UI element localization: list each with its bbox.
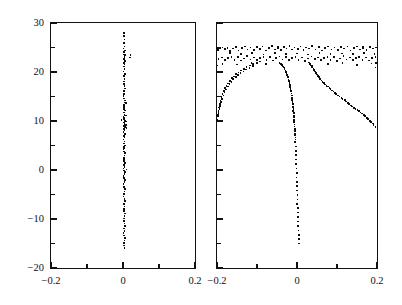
y-tick-major bbox=[217, 120, 223, 121]
data-point bbox=[123, 35, 125, 37]
data-point bbox=[308, 48, 310, 50]
data-point bbox=[372, 48, 374, 50]
data-point bbox=[219, 108, 221, 110]
data-point bbox=[347, 102, 349, 104]
data-point bbox=[227, 57, 229, 59]
y-tick-minor bbox=[217, 96, 221, 97]
data-point bbox=[280, 63, 282, 65]
data-point bbox=[247, 49, 249, 51]
data-point bbox=[224, 48, 226, 50]
data-point bbox=[217, 116, 219, 118]
data-point bbox=[375, 56, 377, 58]
y-tick-label: 20 bbox=[2, 67, 44, 78]
data-point bbox=[352, 59, 354, 61]
x-tick-label: 0.2 bbox=[352, 276, 402, 287]
y-tick-minor bbox=[217, 194, 221, 195]
data-point bbox=[221, 98, 223, 100]
data-point bbox=[369, 46, 371, 48]
y-tick-minor bbox=[51, 194, 55, 195]
data-point bbox=[121, 119, 123, 121]
data-point bbox=[296, 185, 298, 187]
data-point bbox=[346, 59, 348, 61]
data-point bbox=[227, 86, 229, 88]
data-point bbox=[375, 126, 377, 128]
data-point bbox=[327, 63, 329, 65]
data-point bbox=[286, 48, 288, 50]
data-point bbox=[129, 57, 131, 59]
data-point bbox=[356, 46, 358, 48]
x-tick-label: −0.2 bbox=[192, 276, 242, 287]
data-point bbox=[125, 121, 127, 123]
data-point bbox=[279, 56, 281, 58]
data-point bbox=[280, 49, 282, 51]
data-point bbox=[298, 238, 300, 240]
data-point bbox=[366, 49, 368, 51]
data-point bbox=[342, 62, 344, 64]
data-point bbox=[293, 117, 295, 119]
data-point bbox=[298, 243, 300, 245]
data-point bbox=[253, 49, 255, 51]
data-point bbox=[243, 71, 245, 73]
data-point bbox=[313, 68, 315, 70]
data-point bbox=[294, 47, 296, 49]
data-point bbox=[262, 46, 264, 48]
data-point bbox=[363, 52, 365, 54]
data-point bbox=[352, 53, 354, 55]
data-point bbox=[243, 68, 245, 70]
data-point bbox=[318, 76, 320, 78]
data-point bbox=[243, 58, 245, 60]
data-point bbox=[305, 47, 307, 49]
data-point bbox=[374, 53, 376, 55]
data-point bbox=[327, 56, 329, 58]
data-point bbox=[324, 47, 326, 49]
data-point bbox=[240, 53, 242, 55]
data-point bbox=[293, 112, 295, 114]
data-point bbox=[285, 56, 287, 58]
data-point bbox=[296, 168, 298, 170]
y-tick-label: 30 bbox=[2, 18, 44, 29]
x-tick-label: 0 bbox=[98, 276, 148, 287]
data-point bbox=[371, 63, 373, 65]
y-tick-major bbox=[51, 169, 57, 170]
data-point bbox=[218, 58, 220, 60]
data-point bbox=[340, 46, 342, 48]
data-point bbox=[123, 232, 125, 234]
data-point bbox=[124, 181, 126, 183]
data-point bbox=[375, 67, 377, 69]
data-point bbox=[334, 47, 336, 49]
data-point bbox=[337, 49, 339, 51]
data-point bbox=[315, 49, 317, 51]
data-point bbox=[294, 134, 296, 136]
y-tick-minor bbox=[51, 96, 55, 97]
data-point bbox=[123, 228, 125, 230]
y-tick-minor bbox=[51, 243, 55, 244]
data-point bbox=[296, 190, 298, 192]
data-point bbox=[331, 49, 333, 51]
data-point bbox=[307, 54, 309, 56]
data-point bbox=[320, 59, 322, 61]
data-point bbox=[125, 102, 127, 104]
y-tick-major bbox=[51, 267, 57, 268]
data-point bbox=[330, 53, 332, 55]
y-tick-major bbox=[51, 218, 57, 219]
data-point bbox=[341, 97, 343, 99]
data-point bbox=[232, 48, 234, 50]
data-point bbox=[123, 242, 125, 244]
data-point bbox=[283, 46, 285, 48]
data-point bbox=[123, 196, 125, 198]
data-point bbox=[318, 46, 320, 48]
data-point bbox=[124, 188, 126, 190]
data-point bbox=[347, 46, 349, 48]
data-point bbox=[123, 193, 125, 195]
data-point bbox=[296, 172, 298, 174]
data-point bbox=[297, 216, 299, 218]
data-point bbox=[372, 123, 374, 125]
data-point bbox=[292, 103, 294, 105]
data-point bbox=[298, 59, 300, 61]
y-tick-minor bbox=[217, 145, 221, 146]
data-point bbox=[124, 88, 126, 90]
data-point bbox=[343, 48, 345, 50]
data-point bbox=[336, 60, 338, 62]
data-point bbox=[123, 32, 125, 34]
data-point bbox=[238, 50, 240, 52]
